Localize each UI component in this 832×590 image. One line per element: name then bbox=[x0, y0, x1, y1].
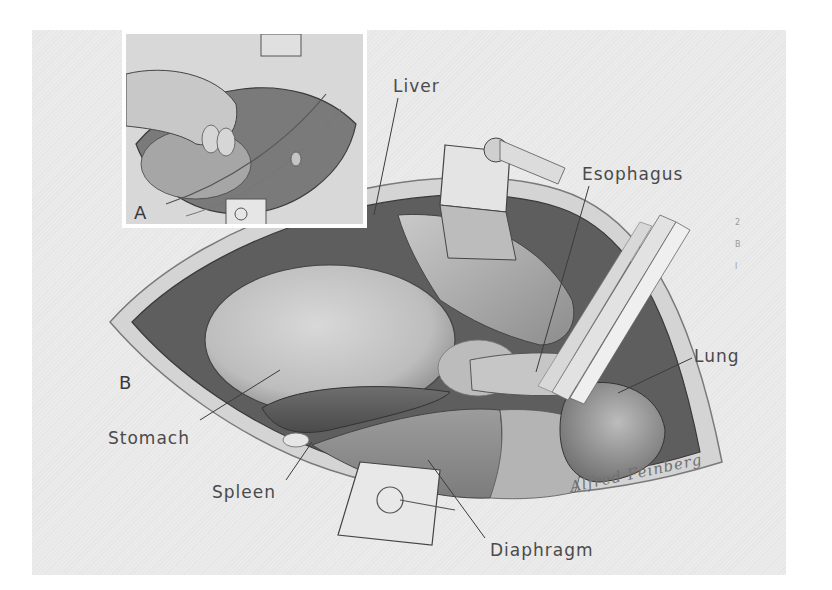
label-esophagus: Esophagus bbox=[582, 164, 683, 184]
margin-mark: l bbox=[735, 256, 741, 278]
inset-drawing bbox=[126, 34, 367, 228]
margin-mark: 2 bbox=[735, 212, 741, 234]
margin-marks: 2 B l bbox=[735, 212, 741, 278]
label-spleen: Spleen bbox=[212, 482, 276, 502]
label-lung: Lung bbox=[694, 346, 740, 366]
label-stomach: Stomach bbox=[108, 428, 190, 448]
panel-label-b: B bbox=[119, 372, 131, 393]
label-diaphragm: Diaphragm bbox=[490, 540, 594, 560]
margin-mark: B bbox=[735, 234, 741, 256]
panel-label-a: A bbox=[134, 202, 146, 223]
spleen-tip bbox=[283, 433, 309, 447]
inset-panel-a: A bbox=[122, 30, 367, 228]
label-liver: Liver bbox=[393, 76, 440, 96]
